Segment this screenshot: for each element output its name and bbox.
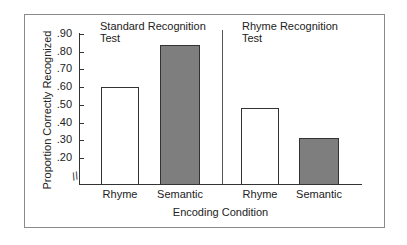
category-label-semantic-2: Semantic xyxy=(289,188,349,200)
bar-semantic-panel2 xyxy=(299,138,339,185)
y-tick-label: .40 xyxy=(42,116,72,128)
y-tick-label: .20 xyxy=(42,151,72,163)
panel-divider xyxy=(222,30,223,184)
y-tick-label: .70 xyxy=(42,62,72,74)
y-axis-line xyxy=(79,33,80,185)
y-tick-label: .60 xyxy=(42,80,72,92)
bar-rhyme-panel2 xyxy=(241,108,279,185)
y-tick-label: .30 xyxy=(42,133,72,145)
bar-semantic-panel1 xyxy=(160,45,200,185)
y-tick-label: .50 xyxy=(42,98,72,110)
y-tick-label: .80 xyxy=(42,45,72,57)
x-axis-label: Encoding Condition xyxy=(0,206,407,218)
category-label-semantic-1: Semantic xyxy=(150,188,210,200)
panel-title-standard: Standard RecognitionTest xyxy=(100,20,206,44)
bar-rhyme-panel1 xyxy=(101,87,139,185)
y-tick-label: .90 xyxy=(42,27,72,39)
category-label-rhyme-2: Rhyme xyxy=(230,188,290,200)
panel-title-rhyme: Rhyme RecognitionTest xyxy=(242,20,338,44)
category-label-rhyme-1: Rhyme xyxy=(90,188,150,200)
